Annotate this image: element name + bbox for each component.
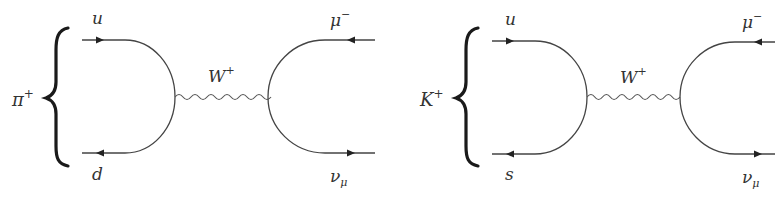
arrow-right-icon: [754, 151, 762, 158]
arrow-left-icon: [96, 150, 104, 157]
lepton-line-top: [268, 40, 375, 97]
arrow-left-icon: [347, 37, 355, 44]
left-brace-icon: [46, 28, 68, 166]
arrow-left-icon: [754, 39, 762, 46]
diagram-kaon-decay: K+ u s W+ μ− νμ: [419, 9, 775, 190]
quark-line-bottom: [82, 97, 175, 153]
quark-line-bottom: [492, 97, 587, 154]
boson-label: W+: [208, 64, 235, 86]
lepton-top-label: μ−: [330, 8, 350, 30]
quark-bottom-label: d: [92, 164, 103, 184]
quark-top-label: u: [92, 8, 103, 28]
diagram-pion-decay: π+ u d W+ μ− νμ: [11, 8, 375, 189]
quark-line-top: [492, 41, 587, 97]
arrow-right-icon: [96, 37, 104, 44]
arrow-right-icon: [347, 150, 355, 157]
meson-label: π+: [11, 87, 34, 110]
feynman-diagrams: π+ u d W+ μ− νμ K+ u: [0, 0, 780, 197]
quark-bottom-label: s: [505, 164, 514, 184]
w-boson-propagator: [587, 95, 680, 100]
meson-label: K+: [419, 87, 444, 110]
left-brace-icon: [456, 28, 478, 166]
boson-label: W+: [620, 65, 647, 87]
lepton-line-top: [680, 42, 775, 97]
lepton-top-label: μ−: [742, 10, 762, 32]
lepton-bottom-label: νμ: [742, 167, 760, 190]
lepton-line-bottom: [268, 97, 375, 153]
arrow-right-icon: [506, 38, 514, 45]
w-boson-propagator: [175, 95, 271, 100]
arrow-left-icon: [506, 151, 514, 158]
quark-line-top: [82, 40, 175, 97]
lepton-line-bottom: [680, 97, 775, 154]
quark-top-label: u: [505, 9, 516, 29]
lepton-bottom-label: νμ: [330, 166, 348, 189]
